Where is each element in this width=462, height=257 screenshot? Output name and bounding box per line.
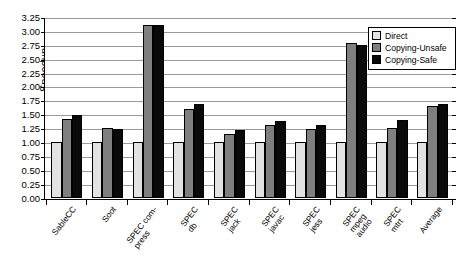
- y-tick-label: 3.00: [0, 27, 40, 37]
- x-axis-label-text: Soot: [101, 205, 118, 224]
- y-tick-label: 3.25: [0, 13, 40, 23]
- bar: [62, 119, 72, 198]
- y-tick-mark: [41, 115, 45, 116]
- bar: [102, 128, 112, 198]
- bar: [72, 115, 82, 198]
- y-tick-mark: [41, 157, 45, 158]
- y-axis-tick-labels: 3.253.002.752.502.252.001.751.501.251.00…: [0, 12, 40, 202]
- y-tick-label: 1.50: [0, 110, 40, 120]
- x-axis-label-text: SPEC javac: [260, 205, 288, 234]
- bar: [153, 25, 163, 197]
- y-tick-mark: [41, 32, 45, 33]
- x-axis-label-text: Average: [417, 205, 443, 235]
- bar: [113, 129, 123, 197]
- y-tick-mark: [41, 171, 45, 172]
- legend-item[interactable]: Direct: [372, 30, 452, 41]
- legend-swatch: [372, 31, 381, 40]
- y-tick-label: 0.50: [0, 166, 40, 176]
- x-axis-label-text: SableCC: [50, 205, 77, 237]
- bar-group: [290, 18, 331, 198]
- bar: [295, 142, 305, 198]
- bar: [427, 106, 437, 198]
- x-axis-label-text: SPEC jack: [219, 205, 247, 234]
- legend-swatch: [372, 55, 381, 64]
- y-tick-label: 2.25: [0, 69, 40, 79]
- bar: [235, 130, 245, 198]
- speedup-bar-chart: 3.253.002.752.502.252.001.751.501.251.00…: [0, 0, 462, 257]
- bar-group: [250, 18, 291, 198]
- y-tick-mark: [41, 60, 45, 61]
- y-tick-mark: [41, 101, 45, 102]
- bar: [387, 128, 397, 198]
- bar-group: [87, 18, 128, 198]
- bar: [173, 142, 183, 198]
- bar: [438, 104, 448, 197]
- bar-group: [128, 18, 169, 198]
- bar: [224, 134, 234, 197]
- x-axis-label-text: SPEC mpeg audio: [341, 205, 375, 239]
- y-tick-label: 1.00: [0, 138, 40, 148]
- y-tick-mark: [41, 87, 45, 88]
- bar-group: [168, 18, 209, 198]
- y-tick-mark: [41, 143, 45, 144]
- x-axis-label-text: SPEC db: [179, 205, 207, 234]
- legend-item[interactable]: Copying-Safe: [372, 54, 452, 65]
- y-tick-label: 0.25: [0, 180, 40, 190]
- bar: [133, 142, 143, 198]
- bar: [214, 142, 224, 198]
- bar: [336, 142, 346, 198]
- bar: [275, 121, 285, 197]
- bar-group: [331, 18, 372, 198]
- y-tick-label: 2.50: [0, 55, 40, 65]
- bar: [92, 142, 102, 198]
- legend-label: Copying-Safe: [385, 55, 437, 65]
- bar: [417, 142, 427, 198]
- bar-group: [47, 18, 88, 198]
- bar: [265, 125, 275, 197]
- bar: [316, 125, 326, 197]
- x-axis-label-text: SPEC mtrt: [382, 205, 410, 234]
- legend-label: Copying-Unsafe: [385, 43, 447, 53]
- legend: DirectCopying-UnsafeCopying-Safe: [368, 27, 456, 70]
- bar: [255, 142, 265, 198]
- y-tick-label: 2.00: [0, 82, 40, 92]
- x-axis-tick-labels: SableCCSootSPEC com- pressSPEC dbSPEC ja…: [44, 205, 462, 257]
- bar: [376, 142, 386, 198]
- bar: [306, 129, 316, 197]
- y-tick-label: 0.00: [0, 194, 40, 204]
- y-tick-label: 2.75: [0, 41, 40, 51]
- y-tick-mark: [41, 46, 45, 47]
- legend-swatch: [372, 43, 381, 52]
- bar: [194, 104, 204, 197]
- legend-label: Direct: [385, 31, 407, 41]
- y-tick-mark: [41, 185, 45, 186]
- bar-group: [209, 18, 250, 198]
- y-tick-mark: [41, 129, 45, 130]
- y-tick-mark: [41, 18, 45, 19]
- y-tick-label: 0.75: [0, 152, 40, 162]
- y-tick-label: 1.25: [0, 124, 40, 134]
- x-axis-label-text: SPEC com- press: [125, 205, 165, 250]
- x-axis-label-text: SPEC jess: [301, 205, 329, 234]
- bar: [397, 120, 407, 198]
- bar: [346, 43, 356, 197]
- bar: [184, 109, 194, 198]
- y-tick-mark: [41, 74, 45, 75]
- bar: [357, 45, 367, 198]
- y-tick-label: 1.75: [0, 96, 40, 106]
- legend-item[interactable]: Copying-Unsafe: [372, 42, 452, 53]
- bar: [143, 25, 153, 197]
- bar: [51, 142, 61, 198]
